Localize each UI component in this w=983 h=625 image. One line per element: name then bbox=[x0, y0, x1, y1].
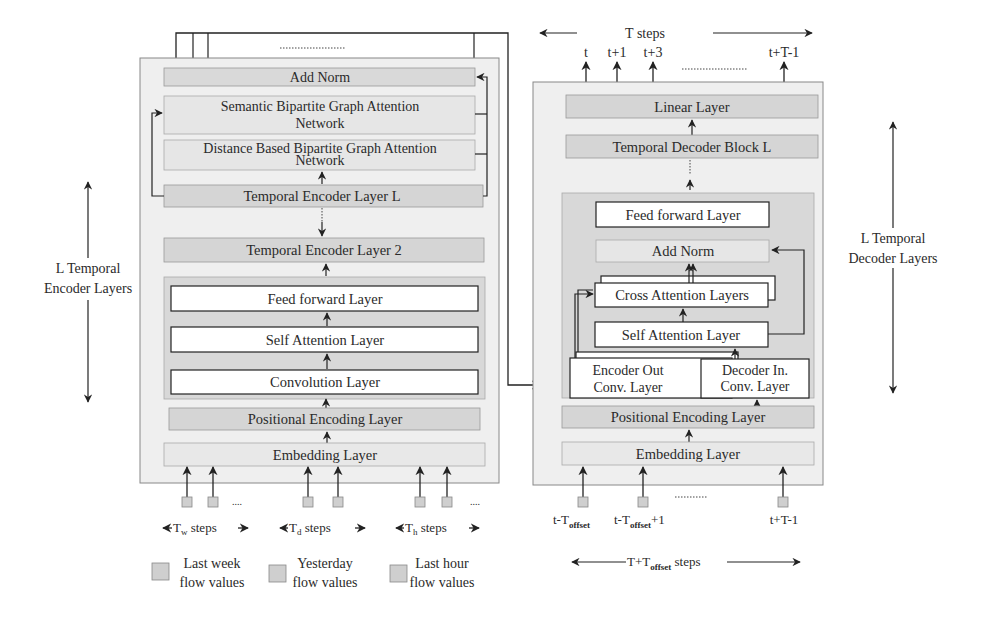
legend-week-swatch bbox=[152, 563, 169, 580]
decoder-stack: T steps t t+1 t+3 t+T-1 Linear Layer Tem… bbox=[533, 26, 938, 572]
svg-text:Decoder In.: Decoder In. bbox=[722, 363, 788, 378]
svg-text:Temporal Encoder Layer 2: Temporal Encoder Layer 2 bbox=[246, 242, 402, 258]
svg-text:Encoder Layers: Encoder Layers bbox=[44, 281, 132, 296]
week-input-square bbox=[208, 497, 218, 507]
architecture-diagram: Add Norm Semantic Bipartite Graph Attent… bbox=[0, 0, 983, 625]
svg-text:flow values: flow values bbox=[410, 575, 475, 590]
svg-text:Semantic Bipartite Graph Atten: Semantic Bipartite Graph Attention bbox=[221, 99, 420, 114]
hour-input-square bbox=[415, 497, 425, 507]
svg-text:flow values: flow values bbox=[180, 575, 245, 590]
svg-text:Embedding Layer: Embedding Layer bbox=[636, 446, 740, 462]
svg-text:Embedding Layer: Embedding Layer bbox=[273, 447, 377, 463]
encoder-side-label: L Temporal bbox=[56, 261, 121, 276]
day-steps-label: Td steps bbox=[289, 520, 331, 537]
svg-text:Feed forward Layer: Feed forward Layer bbox=[267, 291, 382, 307]
decoder-input-square bbox=[778, 497, 788, 507]
svg-text:Last hour: Last hour bbox=[415, 556, 469, 571]
svg-text:Encoder Out: Encoder Out bbox=[592, 363, 663, 378]
decoder-input-square bbox=[578, 497, 588, 507]
decoder-input-last-label: t+T-1 bbox=[770, 512, 799, 527]
svg-text:t+T-1: t+T-1 bbox=[769, 45, 800, 60]
legend-day-swatch bbox=[269, 565, 286, 582]
svg-text:Temporal Encoder Layer L: Temporal Encoder Layer L bbox=[243, 188, 400, 204]
svg-text:t+3: t+3 bbox=[644, 45, 663, 60]
svg-text:Self Attention Layer: Self Attention Layer bbox=[622, 327, 741, 343]
decoder-output-steps-label: T steps bbox=[625, 26, 665, 41]
svg-text:Yesterday: Yesterday bbox=[297, 556, 352, 571]
svg-text:Convolution Layer: Convolution Layer bbox=[270, 374, 380, 390]
svg-text:flow values: flow values bbox=[293, 575, 358, 590]
svg-text:t: t bbox=[584, 45, 588, 60]
svg-text:Add Norm: Add Norm bbox=[652, 243, 715, 259]
decoder-input-first-label: t-Toffset bbox=[553, 512, 590, 530]
svg-text:Network: Network bbox=[296, 153, 345, 168]
decoder-input-steps-label: T+Toffset steps bbox=[627, 554, 700, 572]
svg-text:t+1: t+1 bbox=[608, 45, 627, 60]
decoder-side-label: L Temporal bbox=[861, 231, 926, 246]
svg-text:Cross Attention Layers: Cross Attention Layers bbox=[615, 287, 749, 303]
hour-steps-label: Th steps bbox=[405, 520, 447, 537]
svg-text:Network: Network bbox=[296, 116, 345, 131]
svg-text:Linear Layer: Linear Layer bbox=[654, 99, 729, 115]
svg-text:Decoder Layers: Decoder Layers bbox=[848, 251, 937, 266]
svg-text:Last week: Last week bbox=[183, 556, 240, 571]
svg-text:Self Attention Layer: Self Attention Layer bbox=[266, 332, 385, 348]
svg-text:Temporal Decoder Block L: Temporal Decoder Block L bbox=[613, 139, 772, 155]
svg-text:....: .... bbox=[470, 496, 480, 507]
svg-text:Positional Encoding Layer: Positional Encoding Layer bbox=[611, 409, 766, 425]
svg-text:Conv. Layer: Conv. Layer bbox=[720, 379, 789, 394]
legend-hour-swatch bbox=[390, 565, 407, 582]
svg-text:Conv. Layer: Conv. Layer bbox=[593, 380, 662, 395]
hour-input-square bbox=[442, 497, 452, 507]
day-input-square bbox=[333, 497, 343, 507]
svg-text:Feed forward Layer: Feed forward Layer bbox=[625, 207, 740, 223]
decoder-input-second-label: t-Toffset+1 bbox=[614, 512, 665, 530]
encoder-stack: Add Norm Semantic Bipartite Graph Attent… bbox=[44, 33, 540, 590]
week-input-square bbox=[182, 497, 192, 507]
decoder-input-square bbox=[638, 497, 648, 507]
encoder-add-norm-label: Add Norm bbox=[290, 70, 350, 85]
svg-text:Positional Encoding Layer: Positional Encoding Layer bbox=[248, 411, 403, 427]
day-input-square bbox=[303, 497, 313, 507]
week-steps-label: Tw steps bbox=[173, 520, 217, 537]
svg-text:....: .... bbox=[232, 496, 242, 507]
